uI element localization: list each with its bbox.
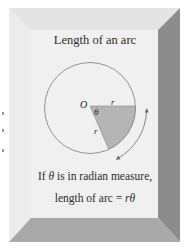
frame-bevel-right	[158, 8, 180, 242]
caption-line-1-pre: If	[38, 170, 49, 182]
frame-bevel-left	[9, 8, 31, 242]
arc-length-formula: rθ	[125, 192, 135, 204]
frame-bevel-top	[9, 8, 180, 30]
frame-panel-face	[31, 30, 158, 218]
caption-line-2: length of arc = rθ	[31, 193, 159, 205]
radius-label-side: r	[94, 127, 98, 136]
margin-artifact	[2, 129, 4, 132]
caption-line-1: If θ is in radian measure,	[31, 171, 159, 183]
caption-line-1-post: is in radian measure,	[54, 170, 152, 182]
caption-line-2-pre: length of arc =	[55, 192, 125, 204]
frame-bevel-bottom	[9, 218, 180, 242]
center-label-O: O	[80, 100, 87, 110]
margin-artifact	[2, 112, 4, 115]
arc-length-figure: Length of an arc O r θ r If θ is in radi…	[0, 0, 186, 251]
figure-title: Length of an arc	[31, 34, 159, 47]
radius-label-top: r	[111, 98, 115, 107]
margin-artifact	[2, 149, 4, 152]
angle-label-theta: θ	[94, 108, 98, 117]
